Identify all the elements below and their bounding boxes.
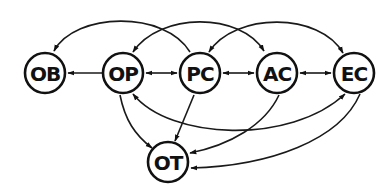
node-ac: AC <box>257 53 297 93</box>
node-label-pc: PC <box>186 62 214 86</box>
edge-op-to-ot <box>120 95 152 148</box>
node-ot: OT <box>148 142 188 182</box>
node-ec: EC <box>334 53 374 93</box>
node-pc: PC <box>180 53 220 93</box>
node-label-ot: OT <box>154 151 184 175</box>
edge-op-ec-lower-arc <box>133 94 345 130</box>
edge-pc-to-ot <box>175 95 194 141</box>
node-label-ob: OB <box>30 62 60 86</box>
node-op: OP <box>103 53 143 93</box>
node-label-ac: AC <box>263 62 291 86</box>
node-ob: OB <box>25 53 65 93</box>
edge-ac-to-ot <box>190 95 279 153</box>
node-label-op: OP <box>108 62 138 86</box>
edge-ec-to-ot <box>191 94 360 168</box>
node-label-ec: EC <box>341 62 368 86</box>
relationship-diagram: OB OP PC AC EC OT <box>0 0 390 193</box>
